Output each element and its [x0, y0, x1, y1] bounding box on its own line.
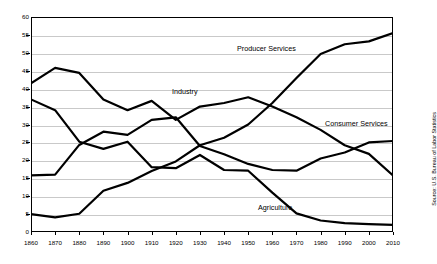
- y-axis-tick-label: 60: [3, 14, 29, 20]
- series-label-agriculture: Agriculture: [258, 204, 292, 211]
- x-axis-tick-mark: [176, 232, 177, 235]
- x-axis-tick-label: 1940: [211, 240, 237, 246]
- y-axis: 051015202530354045505560: [0, 17, 29, 232]
- y-axis-tick-mark: [26, 178, 30, 179]
- y-axis-tick-mark: [26, 142, 30, 143]
- series-label-industry: Industry: [172, 88, 198, 95]
- x-axis-tick-mark: [152, 232, 153, 235]
- x-axis-tick-mark: [55, 232, 56, 235]
- x-axis-tick-mark: [345, 232, 346, 235]
- x-axis-tick-mark: [369, 232, 370, 235]
- x-axis-tick-mark: [272, 232, 273, 235]
- y-axis-tick-mark: [26, 53, 30, 54]
- x-axis-tick-label: 1990: [332, 240, 358, 246]
- y-axis-tick-mark: [26, 196, 30, 197]
- x-axis-tick-label: 1860: [18, 240, 44, 246]
- y-axis-tick-mark: [26, 35, 30, 36]
- x-axis-tick-label: 1960: [259, 240, 285, 246]
- y-axis-tick-mark: [26, 160, 30, 161]
- y-axis-tick-mark: [26, 71, 30, 72]
- x-axis-tick-mark: [393, 232, 394, 235]
- x-axis-tick-mark: [248, 232, 249, 235]
- x-axis-tick-label: 1970: [283, 240, 309, 246]
- x-axis-tick-label: 1880: [66, 240, 92, 246]
- y-axis-tick-label: 0: [3, 229, 29, 235]
- x-axis-tick-mark: [128, 232, 129, 235]
- series-label-producer-services: Producer Services: [237, 45, 296, 52]
- y-axis-tick-mark: [26, 125, 30, 126]
- y-axis-tick-mark: [26, 214, 30, 215]
- x-axis-tick-label: 2010: [380, 240, 406, 246]
- x-axis-tick-label: 1910: [139, 240, 165, 246]
- x-axis-tick-label: 2000: [356, 240, 382, 246]
- y-axis-tick-mark: [26, 89, 30, 90]
- x-axis: 1860187018801890190019101920193019401950…: [31, 232, 393, 258]
- x-axis-tick-label: 1920: [163, 240, 189, 246]
- series-label-consumer-services: Consumer Services: [325, 120, 388, 127]
- x-axis-tick-label: 1930: [187, 240, 213, 246]
- x-axis-tick-mark: [224, 232, 225, 235]
- x-axis-tick-label: 1870: [42, 240, 68, 246]
- x-axis-tick-mark: [321, 232, 322, 235]
- source-note: Source: U.S. Bureau of Labor Statistics: [432, 112, 437, 206]
- x-axis-tick-mark: [296, 232, 297, 235]
- x-axis-tick-label: 1950: [235, 240, 261, 246]
- x-axis-tick-label: 1980: [308, 240, 334, 246]
- y-axis-tick-mark: [26, 107, 30, 108]
- x-axis-tick-mark: [200, 232, 201, 235]
- x-axis-tick-mark: [79, 232, 80, 235]
- x-axis-tick-mark: [103, 232, 104, 235]
- x-axis-tick-mark: [31, 232, 32, 235]
- x-axis-tick-label: 1900: [115, 240, 141, 246]
- x-axis-tick-label: 1890: [90, 240, 116, 246]
